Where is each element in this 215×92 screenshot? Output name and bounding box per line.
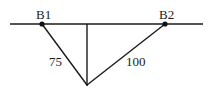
- point-b1: [39, 21, 44, 26]
- label-b2: B2: [159, 7, 174, 22]
- point-b2: [162, 21, 167, 26]
- apex-point: [86, 84, 88, 86]
- label-b1: B1: [36, 7, 51, 22]
- triangulation-diagram: B1 B2 75 100: [0, 0, 215, 92]
- length-label-100: 100: [126, 54, 146, 69]
- length-label-75: 75: [49, 54, 62, 69]
